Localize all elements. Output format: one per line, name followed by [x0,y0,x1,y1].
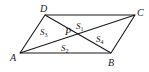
vertex-label-b: B [108,57,114,68]
region-label-s1: S1 [76,21,84,32]
point-label-p: P [64,26,71,37]
region-label-s3: S3 [40,27,48,38]
region-label-s2: S2 [61,43,69,54]
vertex-label-a: A [9,52,17,63]
vertex-label-d: D [39,3,48,14]
vertex-label-c: C [137,7,144,18]
region-label-s4: S4 [96,34,104,45]
parallelogram-diagram: D C A B P S1 S2 S3 S4 [0,0,149,72]
